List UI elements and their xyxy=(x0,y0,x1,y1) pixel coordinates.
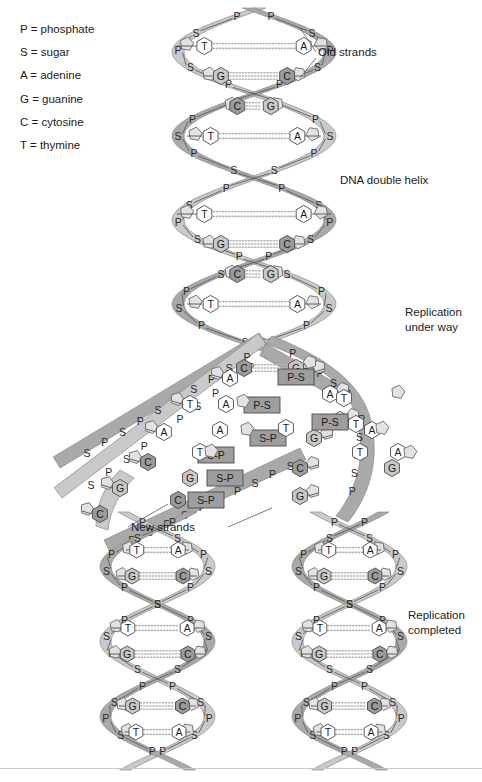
svg-text:G: G xyxy=(217,238,225,250)
svg-text:A: A xyxy=(216,424,223,436)
abbreviation-key: P = phosphate S = sugar A = adenine G = … xyxy=(20,18,190,157)
legend-item-guanine: G = guanine xyxy=(20,88,190,111)
svg-text:S: S xyxy=(123,453,130,465)
svg-text:P: P xyxy=(149,745,156,757)
svg-text:A: A xyxy=(367,544,374,556)
svg-text:T: T xyxy=(207,130,214,142)
svg-text:P: P xyxy=(159,745,166,757)
svg-text:T: T xyxy=(317,622,324,634)
svg-text:S: S xyxy=(134,663,141,675)
svg-text:C: C xyxy=(233,100,241,112)
svg-text:A: A xyxy=(176,726,183,738)
svg-text:T: T xyxy=(187,398,194,410)
svg-text:P: P xyxy=(303,319,310,331)
svg-text:C: C xyxy=(233,268,241,280)
svg-text:P: P xyxy=(101,436,108,448)
svg-text:P: P xyxy=(190,147,197,159)
legend-item-thymine: T = thymine xyxy=(20,134,190,157)
svg-text:T: T xyxy=(125,622,132,634)
svg-text:P: P xyxy=(278,182,285,194)
legend-item-sugar: S = sugar xyxy=(20,41,190,64)
svg-text:G: G xyxy=(310,432,318,444)
svg-text:C: C xyxy=(296,462,304,474)
svg-text:P: P xyxy=(198,319,205,331)
svg-text:S: S xyxy=(283,268,290,280)
svg-text:S: S xyxy=(326,130,333,142)
svg-text:S: S xyxy=(217,268,224,280)
svg-text:T: T xyxy=(207,298,214,310)
svg-text:T: T xyxy=(357,446,364,458)
svg-text:S: S xyxy=(308,27,315,39)
svg-text:S: S xyxy=(314,61,321,73)
svg-text:A: A xyxy=(300,40,307,52)
svg-text:P-S: P-S xyxy=(287,371,305,383)
svg-text:C: C xyxy=(240,362,248,374)
svg-text:S-P: S-P xyxy=(216,472,234,484)
svg-text:C: C xyxy=(179,700,187,712)
svg-text:S: S xyxy=(119,426,126,438)
label-old-strands: Old strands xyxy=(318,45,377,60)
svg-text:A: A xyxy=(160,426,167,438)
svg-text:S: S xyxy=(295,565,302,577)
label-new-strands: New strands xyxy=(131,520,195,535)
svg-text:P: P xyxy=(189,113,196,125)
svg-text:P: P xyxy=(200,548,207,560)
svg-text:T: T xyxy=(197,446,204,458)
svg-text:S: S xyxy=(190,383,197,395)
svg-text:P: P xyxy=(141,440,148,452)
svg-text:A: A xyxy=(300,208,307,220)
svg-text:P: P xyxy=(398,712,405,724)
svg-text:P: P xyxy=(289,347,296,359)
svg-text:S-P: S-P xyxy=(259,432,277,444)
legend-item-adenine: A = adenine xyxy=(20,64,190,87)
svg-text:P: P xyxy=(326,216,333,228)
svg-text:C: C xyxy=(96,508,104,520)
svg-text:S: S xyxy=(103,630,110,642)
svg-text:S: S xyxy=(205,565,212,577)
svg-text:P: P xyxy=(223,182,230,194)
svg-text:S: S xyxy=(326,663,333,675)
legend-item-phosphate: P = phosphate xyxy=(20,18,190,41)
svg-text:P: P xyxy=(349,485,356,497)
svg-text:G: G xyxy=(267,100,275,112)
svg-text:A: A xyxy=(376,622,383,634)
figure-canvas: PSPSPSPSPSPSPSPSPSPSPSPSPSPSPSPSPSPSPSPS… xyxy=(0,0,482,782)
svg-text:T: T xyxy=(341,392,348,404)
svg-text:S: S xyxy=(346,598,353,610)
svg-text:P: P xyxy=(187,581,194,593)
svg-text:P: P xyxy=(312,113,319,125)
svg-text:A: A xyxy=(222,398,229,410)
svg-text:S: S xyxy=(205,630,212,642)
svg-text:P: P xyxy=(318,285,325,297)
svg-text:A: A xyxy=(394,446,401,458)
svg-text:C: C xyxy=(371,570,379,582)
svg-text:T: T xyxy=(325,726,332,738)
svg-text:S: S xyxy=(175,302,182,314)
svg-text:P: P xyxy=(351,745,358,757)
svg-text:T: T xyxy=(201,208,208,220)
svg-text:S: S xyxy=(194,233,201,245)
svg-text:P: P xyxy=(234,485,241,497)
label-dna-double-helix: DNA double helix xyxy=(340,173,428,188)
svg-text:P: P xyxy=(265,250,272,262)
svg-text:P: P xyxy=(234,10,241,22)
svg-text:P: P xyxy=(137,415,144,427)
svg-text:S: S xyxy=(103,565,110,577)
svg-text:P: P xyxy=(169,680,176,692)
svg-text:P-S: P-S xyxy=(253,399,271,411)
svg-text:G: G xyxy=(296,490,304,502)
svg-text:S: S xyxy=(351,467,358,479)
svg-text:S: S xyxy=(251,477,258,489)
legend-item-cytosine: C = cytosine xyxy=(20,111,190,134)
svg-text:P: P xyxy=(269,468,276,480)
svg-text:P: P xyxy=(267,10,274,22)
svg-text:P: P xyxy=(331,680,338,692)
svg-text:P: P xyxy=(206,712,213,724)
svg-text:P: P xyxy=(361,516,368,528)
svg-text:P: P xyxy=(300,548,307,560)
svg-text:S: S xyxy=(271,164,278,176)
svg-text:P: P xyxy=(176,413,183,425)
svg-text:C: C xyxy=(371,700,379,712)
svg-text:G: G xyxy=(320,700,328,712)
svg-text:C: C xyxy=(179,570,187,582)
